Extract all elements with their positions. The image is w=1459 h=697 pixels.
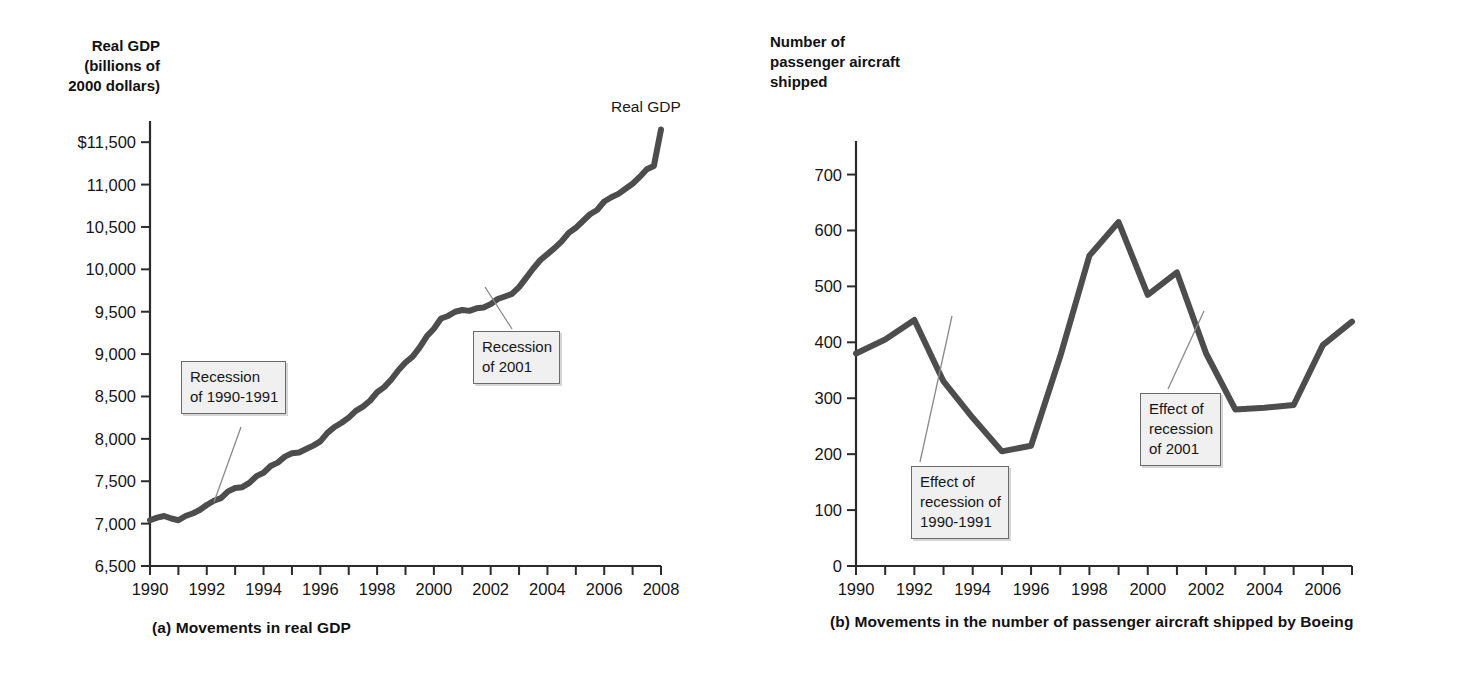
y-tick-label: 8,000 — [95, 430, 136, 448]
x-tick-label: 1996 — [1013, 580, 1050, 598]
x-tick-label: 1990 — [838, 580, 875, 598]
y-tick-label: 10,500 — [86, 218, 136, 236]
y-tick-label: 200 — [814, 445, 842, 463]
y-tick-label: 6,500 — [95, 557, 136, 575]
x-tick-label: 2006 — [1304, 580, 1341, 598]
x-tick-label: 2006 — [586, 580, 623, 598]
x-tick-label: 1994 — [954, 580, 991, 598]
y-tick-label: 9,500 — [95, 303, 136, 321]
y-tick-label: 7,500 — [95, 472, 136, 490]
annotation-effect-recession-1990-1991: Effect of recession of 1990-1991 — [911, 466, 1009, 539]
panel-a-caption: (a) Movements in real GDP — [152, 617, 572, 638]
y-tick-label: 7,000 — [95, 515, 136, 533]
panel-b-caption: (b) Movements in the number of passenger… — [830, 611, 1430, 632]
chart-a-plot: $11,50011,00010,50010,0009,5009,0008,500… — [0, 0, 730, 697]
y-tick-label: 8,500 — [95, 387, 136, 405]
x-tick-label: 2008 — [643, 580, 680, 598]
y-tick-label: 11,000 — [87, 176, 136, 194]
chart-b-plot: 7006005004003002001000199019921994199619… — [730, 0, 1459, 697]
x-tick-label: 1992 — [896, 580, 933, 598]
figure-container: Real GDP (billions of 2000 dollars) Real… — [0, 0, 1459, 697]
x-tick-label: 2004 — [529, 580, 566, 598]
y-tick-label: 500 — [814, 277, 842, 295]
y-tick-label: 10,000 — [86, 260, 136, 278]
leader-line-effect-2001 — [1168, 311, 1204, 389]
y-tick-label: 9,000 — [95, 345, 136, 363]
y-tick-label: 400 — [814, 333, 842, 351]
y-tick-label: 100 — [814, 501, 842, 519]
x-tick-label: 1996 — [302, 580, 339, 598]
x-tick-label: 1992 — [188, 580, 225, 598]
x-tick-label: 1990 — [132, 580, 169, 598]
x-tick-label: 2000 — [1129, 580, 1166, 598]
annotation-effect-recession-2001: Effect of recession of 2001 — [1140, 393, 1221, 466]
x-tick-label: 2002 — [472, 580, 509, 598]
y-tick-label: 300 — [814, 389, 842, 407]
x-tick-label: 1998 — [1071, 580, 1108, 598]
x-tick-label: 2002 — [1188, 580, 1225, 598]
x-tick-label: 2004 — [1246, 580, 1283, 598]
annotation-recession-2001: Recession of 2001 — [473, 331, 560, 384]
y-tick-label: $11,500 — [78, 133, 136, 151]
y-tick-label: 700 — [814, 166, 842, 184]
annotation-recession-1990-1991: Recession of 1990-1991 — [181, 361, 286, 414]
y-tick-label: 0 — [833, 557, 842, 575]
data-series-line — [150, 129, 661, 520]
panel-a-real-gdp: Real GDP (billions of 2000 dollars) Real… — [0, 0, 730, 697]
x-tick-label: 2000 — [416, 580, 453, 598]
x-tick-label: 1998 — [359, 580, 396, 598]
y-tick-label: 600 — [814, 221, 842, 239]
panel-b-boeing-shipments: Number of passenger aircraft shipped 700… — [730, 0, 1459, 697]
x-tick-label: 1994 — [245, 580, 282, 598]
